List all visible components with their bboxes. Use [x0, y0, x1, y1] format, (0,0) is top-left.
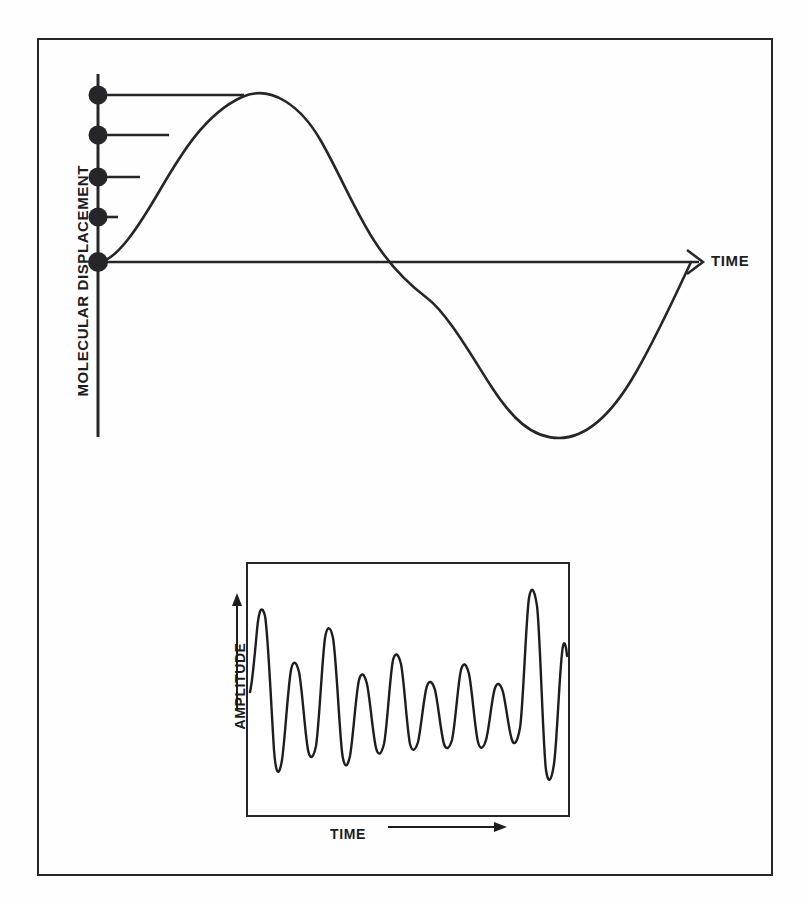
zero-displacement-dot [88, 252, 108, 272]
outer-frame-border: MOLECULAR DISPLACEMENT TIME AMPLITUDE TI… [37, 38, 773, 876]
peak-amplitude-dot [89, 86, 108, 105]
inset-time-axis-arrow [388, 821, 508, 833]
inset-plot-x-axis-label: TIME [330, 826, 366, 842]
main-plot-x-axis-label: TIME [711, 252, 749, 269]
sample-leader-lines [98, 95, 244, 217]
sine-wave-curve [98, 93, 691, 438]
inset-plot-y-axis-label: AMPLITUDE [232, 593, 248, 779]
figure-page: MOLECULAR DISPLACEMENT TIME AMPLITUDE TI… [0, 0, 809, 905]
inset-amplitude-plot [248, 564, 568, 815]
sample-dot-4 [89, 208, 108, 227]
inset-time-arrowhead [494, 822, 507, 832]
main-plot-y-axis-label: MOLECULAR DISPLACEMENT [74, 177, 91, 397]
inset-plot-frame [246, 562, 570, 817]
main-plot-axes [98, 74, 703, 437]
sample-dot-3 [89, 168, 108, 187]
amplitude-trace-curve [250, 590, 567, 780]
sample-dot-2 [89, 126, 108, 145]
